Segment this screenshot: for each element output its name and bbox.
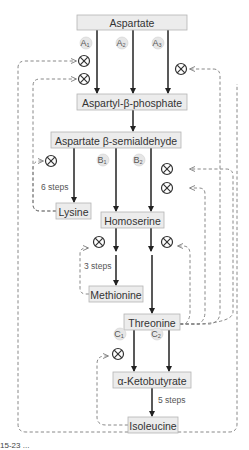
node-label: Homoserine <box>104 215 161 227</box>
node-threonine: Threonine <box>124 314 180 330</box>
node-lysine: Lysine <box>56 203 91 219</box>
node-label: Isoleucine <box>129 420 176 432</box>
step-label-lysine: 6 steps <box>41 182 68 192</box>
node-aspartyl-phosphate: Aspartyl-β-phosphate <box>77 94 187 110</box>
node-isoleucine: Isoleucine <box>128 417 178 433</box>
enzyme-b2: B2 <box>133 154 145 166</box>
step-label-methionine: 3 steps <box>84 261 111 271</box>
feedback-isoleucine-to-a1 <box>18 61 128 432</box>
inhibition-icon <box>46 156 57 167</box>
node-label: Methionine <box>90 289 142 301</box>
node-methionine: Methionine <box>89 286 143 302</box>
enzyme-c2: C2 <box>151 328 163 340</box>
node-label: Aspartate <box>110 17 155 29</box>
node-label: Aspartate β-semialdehyde <box>55 135 177 147</box>
enzyme-a2: A2 <box>116 37 128 49</box>
node-label: Aspartyl-β-phosphate <box>82 97 182 109</box>
feedback-threonine-to-b-upper <box>180 169 233 324</box>
inhibition-icon <box>162 164 173 175</box>
node-aspartate-semialdehyde: Aspartate β-semialdehyde <box>51 132 181 148</box>
inhibition-icon <box>162 183 173 194</box>
enzyme-a3: A3 <box>152 37 164 49</box>
node-label: Lysine <box>59 206 89 218</box>
node-label: Threonine <box>128 317 175 329</box>
enzyme-c1: C1 <box>114 328 126 340</box>
feedback-methionine-to-methionine-branch <box>80 248 89 294</box>
node-aspartate: Aspartate <box>77 15 187 30</box>
pathway-diagram: Aspartate Aspartyl-β-phosphate Aspartate… <box>0 0 249 450</box>
node-ketobutyrate: α-Ketobutyrate <box>113 372 191 388</box>
feedback-isoleucine-to-c1 <box>97 356 128 425</box>
node-homoserine: Homoserine <box>101 212 164 228</box>
figure-caption: 15-23 ... <box>0 441 249 450</box>
node-label: α-Ketobutyrate <box>117 375 186 387</box>
inhibition-icon <box>176 64 187 75</box>
feedback-threonine-to-b-lower <box>180 188 205 324</box>
step-label-isoleucine: 5 steps <box>158 395 185 405</box>
inhibition-icon <box>79 74 90 85</box>
feedback-threonine-to-threonine-branch <box>178 246 190 324</box>
inhibition-icon <box>162 237 173 248</box>
inhibition-icon <box>79 56 90 67</box>
enzyme-b1: B1 <box>97 154 109 166</box>
inhibition-icon <box>113 349 124 360</box>
enzyme-a1: A1 <box>80 37 92 49</box>
inhibition-icon <box>94 237 105 248</box>
